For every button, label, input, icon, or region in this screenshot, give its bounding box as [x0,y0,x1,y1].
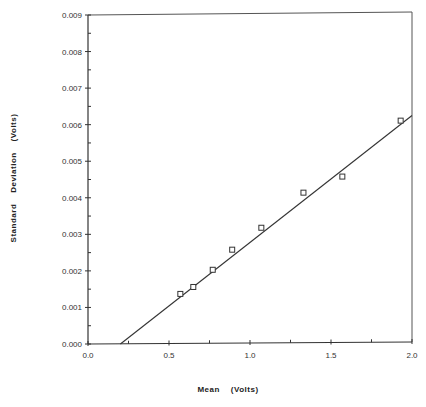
data-point-marker [230,247,235,252]
y-tick-label: 0.008 [62,48,83,57]
data-point-marker [301,190,306,195]
fit-line [120,116,412,344]
plot-frame [88,12,412,344]
x-tick-label: 0.0 [82,351,94,360]
data-point-marker [178,291,183,296]
y-tick-label: 0.004 [62,194,83,203]
y-tick-label: 0.009 [62,11,83,20]
y-tick-label: 0.001 [62,303,83,312]
data-point-marker [210,267,215,272]
data-point-marker [191,284,196,289]
data-point-marker [398,118,403,123]
y-tick-label: 0.003 [62,230,83,239]
data-point-marker [340,174,345,179]
x-tick-label: 1.5 [325,351,337,360]
y-tick-label: 0.005 [62,157,83,166]
y-tick-label: 0.000 [62,340,83,349]
x-tick-label: 2.0 [406,351,418,360]
y-axis-title: Standard Deviation (Volts) [9,114,18,243]
y-tick-label: 0.002 [62,267,83,276]
x-tick-label: 1.0 [244,351,256,360]
data-point-marker [259,225,264,230]
data-points [178,118,403,296]
x-tick-label: 0.5 [163,351,175,360]
y-tick-label: 0.007 [62,84,83,93]
x-axis-title: Mean (Volts) [197,385,258,394]
y-axis-ticks: 0.0000.0010.0020.0030.0040.0050.0060.007… [62,11,91,349]
y-tick-label: 0.006 [62,121,83,130]
chart-canvas: 0.0000.0010.0020.0030.0040.0050.0060.007… [0,0,426,407]
